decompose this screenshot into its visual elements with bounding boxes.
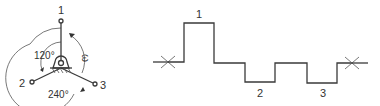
node-1 (59, 19, 63, 23)
step-waveform: 1 2 3 (153, 8, 368, 99)
waveform-path (168, 23, 352, 83)
angle-240-label: 240° (48, 89, 69, 100)
node-2-label: 2 (19, 77, 25, 89)
arc-240-arrowhead-icon (80, 87, 85, 92)
node-3 (93, 82, 97, 86)
star-diagram: 1 2 3 120° 240° ω (6, 4, 106, 106)
arc-120-arrowhead-icon (40, 67, 44, 72)
pivot-pin-icon (59, 61, 64, 66)
step-2-label: 2 (257, 87, 263, 99)
node-2 (30, 80, 34, 84)
omega-arrowhead-icon (69, 33, 75, 38)
node-1-label: 1 (58, 4, 64, 16)
angle-120-label: 120° (34, 50, 55, 61)
arc-240-top (30, 28, 61, 44)
omega-label: ω (80, 54, 91, 62)
figure-canvas: 1 2 3 120° 240° ω 1 2 3 (0, 0, 380, 106)
node-3-label: 3 (100, 79, 106, 91)
step-1-label: 1 (196, 8, 202, 20)
step-3-label: 3 (320, 87, 326, 99)
